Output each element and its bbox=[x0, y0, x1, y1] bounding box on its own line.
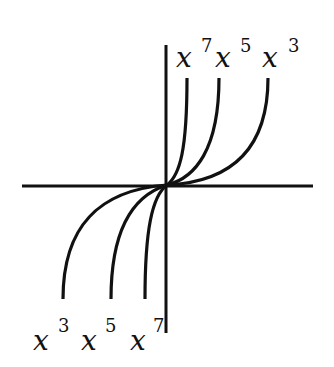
label-top-x7: x 7 bbox=[176, 35, 212, 74]
label-top-x5: x 5 bbox=[215, 35, 251, 74]
curve-x3-lower bbox=[63, 185, 167, 299]
svg-text:7: 7 bbox=[201, 35, 212, 56]
svg-text:3: 3 bbox=[58, 315, 69, 336]
svg-text:x: x bbox=[33, 324, 49, 357]
curve-x7-lower bbox=[145, 185, 167, 299]
svg-text:5: 5 bbox=[105, 315, 116, 336]
svg-text:x: x bbox=[215, 41, 231, 74]
label-bottom-x5: x 5 bbox=[81, 315, 116, 357]
svg-text:5: 5 bbox=[240, 35, 251, 56]
label-bottom-x7: x 7 bbox=[130, 315, 164, 357]
svg-text:x: x bbox=[81, 324, 97, 357]
svg-text:x: x bbox=[262, 41, 278, 74]
curve-x5-upper bbox=[167, 78, 219, 185]
svg-text:x: x bbox=[130, 324, 146, 357]
power-functions-diagram: x 7 x 5 x 3 x 3 x 5 x 7 bbox=[0, 0, 334, 367]
curve-x7-upper bbox=[167, 78, 187, 185]
svg-text:3: 3 bbox=[288, 35, 299, 56]
curve-x5-lower bbox=[111, 185, 167, 299]
label-top-x3: x 3 bbox=[262, 35, 299, 74]
svg-text:7: 7 bbox=[153, 315, 164, 336]
svg-text:x: x bbox=[176, 41, 192, 74]
label-bottom-x3: x 3 bbox=[33, 315, 69, 357]
